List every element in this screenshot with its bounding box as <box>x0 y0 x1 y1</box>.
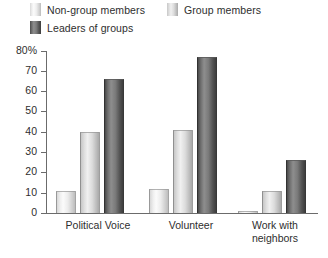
bar-non-group-members-political-voice <box>56 191 76 213</box>
y-tick-mark <box>41 213 46 214</box>
y-tick-label-30: 30 <box>0 145 37 157</box>
chart-legend: Non-group members Group members Leaders … <box>0 0 328 44</box>
x-tick-label-volunteer: Volunteer <box>143 219 239 232</box>
bar-leaders-of-groups-work-with-neighbors <box>286 160 306 213</box>
legend-item-non-group-members: Non-group members <box>30 3 145 16</box>
y-tick-label-70: 70 <box>0 64 37 76</box>
plot-area <box>46 51 318 213</box>
legend-row-2: Leaders of groups <box>30 21 133 34</box>
bar-group-members-volunteer <box>173 130 193 213</box>
bar-leaders-of-groups-political-voice <box>104 79 124 213</box>
x-tick-label-work-with-neighbors: Work with neighbors <box>232 219 318 245</box>
y-tick-label-0: 0 <box>0 206 37 218</box>
bar-non-group-members-volunteer <box>149 189 169 213</box>
legend-row-1: Non-group members Group members <box>30 3 261 16</box>
legend-label-non-group-members: Non-group members <box>47 4 145 16</box>
legend-swatch-non-group-members-icon <box>30 3 41 16</box>
x-tick-label-political-voice: Political Voice <box>50 219 146 232</box>
y-tick-label-10: 10 <box>0 186 37 198</box>
y-tick-label-60: 60 <box>0 84 37 96</box>
y-tick-label-20: 20 <box>0 165 37 177</box>
y-tick-label-50: 50 <box>0 104 37 116</box>
legend-item-leaders-of-groups: Leaders of groups <box>30 21 133 34</box>
bar-group-members-work-with-neighbors <box>262 191 282 213</box>
bar-group-members-political-voice <box>80 132 100 213</box>
bar-non-group-members-work-with-neighbors <box>238 211 258 213</box>
legend-item-group-members: Group members <box>167 3 261 16</box>
legend-label-leaders-of-groups: Leaders of groups <box>47 22 133 34</box>
legend-swatch-group-members-icon <box>167 3 178 16</box>
legend-swatch-leaders-of-groups-icon <box>30 21 41 34</box>
bar-leaders-of-groups-volunteer <box>197 57 217 213</box>
legend-label-group-members: Group members <box>184 4 261 16</box>
y-tick-label-40: 40 <box>0 125 37 137</box>
x-axis-line <box>46 213 318 214</box>
y-tick-label-80: 80% <box>0 44 37 56</box>
